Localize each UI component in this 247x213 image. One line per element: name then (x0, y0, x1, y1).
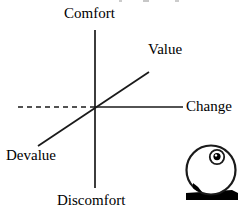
axis-label-comfort: Comfort (64, 6, 115, 21)
axis-label-change: Change (186, 99, 232, 114)
ball-eye-highlight (215, 154, 217, 156)
diagonal-value-axis-line (38, 72, 149, 146)
diagram-canvas: Comfort Discomfort Change Value Devalue (0, 0, 247, 213)
axis-label-discomfort: Discomfort (57, 193, 125, 208)
axis-label-devalue: Devalue (6, 148, 56, 163)
ball-eye-pupil (213, 153, 220, 160)
ball-figure-group (186, 146, 238, 201)
axis-label-value: Value (148, 42, 182, 57)
